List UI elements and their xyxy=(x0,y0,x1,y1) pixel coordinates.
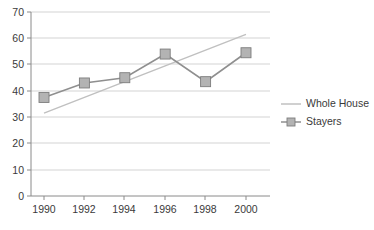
x-tick-label-1996: 1996 xyxy=(153,203,177,215)
data-point-marker xyxy=(241,48,251,58)
y-tick-label-20: 20 xyxy=(12,137,24,149)
data-point-marker xyxy=(201,77,211,87)
y-tick-label-10: 10 xyxy=(12,164,24,176)
data-point-marker xyxy=(120,73,130,83)
y-tick-label-40: 40 xyxy=(12,85,24,97)
y-tick-label-60: 60 xyxy=(12,32,24,44)
y-tick-label-50: 50 xyxy=(12,58,24,70)
x-tick-label-1992: 1992 xyxy=(72,203,96,215)
legend-label-stayers: Stayers xyxy=(306,115,342,127)
chart-legend: Whole House Stayers xyxy=(281,97,369,127)
data-point-marker xyxy=(39,92,49,102)
y-axis-tick-labels: 70 60 50 40 30 20 10 0 xyxy=(12,6,24,202)
y-tick-label-0: 0 xyxy=(18,190,24,202)
x-axis-tick-labels: 1990 1992 1994 1996 1998 2000 xyxy=(32,203,258,215)
y-axis-ticks xyxy=(27,12,31,196)
data-point-marker xyxy=(160,49,170,59)
legend-label-whole-house: Whole House xyxy=(306,97,369,109)
chart-container: 70 60 50 40 30 20 10 0 1990 1992 1994 19… xyxy=(0,0,374,230)
x-axis-ticks xyxy=(44,196,246,200)
x-tick-label-2000: 2000 xyxy=(234,203,258,215)
y-tick-label-30: 30 xyxy=(12,111,24,123)
data-point-marker xyxy=(79,78,89,88)
x-tick-label-1990: 1990 xyxy=(32,203,56,215)
line-chart: 70 60 50 40 30 20 10 0 1990 1992 1994 19… xyxy=(0,0,374,230)
x-tick-label-1998: 1998 xyxy=(193,203,217,215)
y-tick-label-70: 70 xyxy=(12,6,24,18)
x-tick-label-1994: 1994 xyxy=(112,203,136,215)
legend-swatch-stayers-marker xyxy=(287,118,295,126)
